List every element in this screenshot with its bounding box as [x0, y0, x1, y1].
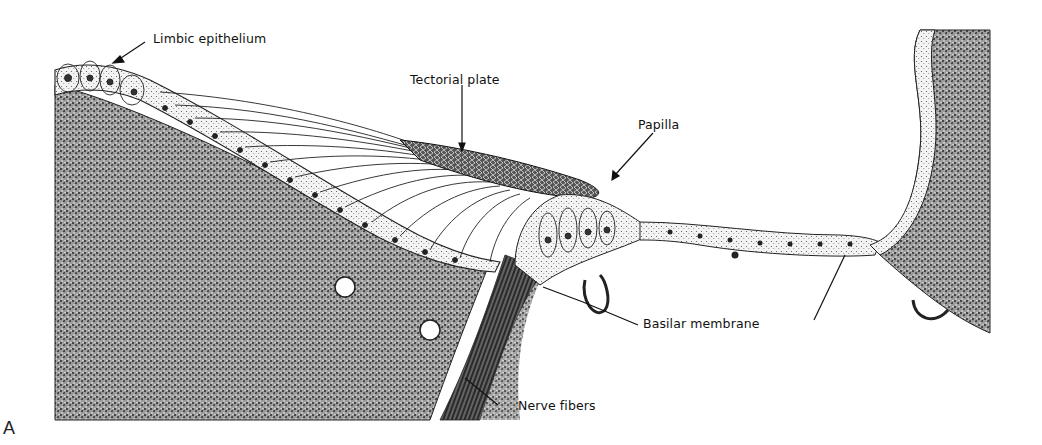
label-basilar-membrane: Basilar membrane: [643, 316, 759, 331]
basilar-membrane: [640, 222, 880, 256]
papilla: [515, 195, 650, 285]
label-nerve-fibers: Nerve fibers: [518, 398, 596, 413]
label-tectorial-plate: Tectorial plate: [410, 72, 500, 87]
right-tissue: [880, 30, 990, 333]
tectorial-plate: [400, 140, 599, 198]
panel-letter: A: [3, 418, 15, 439]
label-papilla: Papilla: [638, 117, 679, 132]
label-limbic-epithelium: Limbic epithelium: [153, 31, 266, 46]
cochlear-section-illustration: [0, 0, 1042, 445]
